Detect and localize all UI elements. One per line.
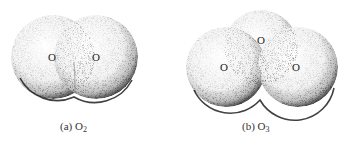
o3-molecule: O O O [177, 0, 354, 120]
formula-base: O [258, 120, 266, 132]
formula-subscript: 2 [83, 125, 87, 134]
molecule-figure: O O O O O [0, 0, 354, 146]
atom-label: O [292, 61, 300, 73]
caption-o3: (b) O3 [242, 120, 270, 134]
o2-molecule: O O [0, 0, 177, 120]
atom-label: O [48, 51, 56, 63]
caption-prefix: (b) [242, 120, 255, 132]
atom-label: O [92, 51, 100, 63]
caption-prefix: (a) [60, 120, 72, 132]
caption-o2: (a) O2 [60, 120, 87, 134]
atom-label: O [257, 34, 265, 46]
atom-label: O [220, 61, 228, 73]
formula-base: O [75, 120, 83, 132]
formula-subscript: 3 [266, 125, 270, 134]
